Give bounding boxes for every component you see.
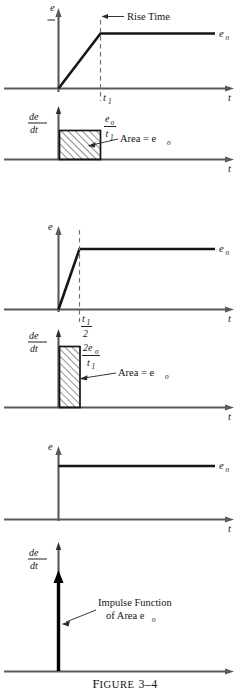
impulse-leader-arrowhead — [62, 621, 71, 627]
panel-3-bottom-plot: Impulse Function of Area e o de dt — [4, 542, 234, 675]
panel-1-top-y-axis-label: e — [50, 2, 55, 13]
panel-2-top-y-axis-label: e — [48, 221, 53, 232]
panel-2-top-y-axis-arrowhead — [55, 226, 61, 235]
panel-1-top-plot: Rise Time e t e o t 1 — [4, 2, 234, 106]
rise-time-arrowhead — [102, 14, 109, 19]
impulse-label-line2: of Area e — [106, 610, 145, 621]
impulse-leader — [66, 610, 96, 622]
panel-1-area-label: Area = e — [120, 133, 157, 144]
panel-1-output-label-sub: o — [226, 33, 230, 42]
panel-1-height-denominator: t — [106, 128, 109, 139]
panel-3-top-x-axis-arrowhead — [225, 516, 234, 522]
panel-2-bottom-x-axis-label: t — [228, 411, 232, 422]
panel-1-output-label: e — [219, 28, 224, 39]
panel-3-step: e t e o Impulse Function of Area e o — [4, 441, 234, 675]
panel-3-output-label: e — [219, 460, 224, 471]
panel-3-bottom-y-axis-arrowhead — [56, 542, 61, 550]
panel-1-bottom-plot: de dt e o t 1 Area = e o t — [4, 106, 234, 174]
panel-1-bottom-x-axis-arrowhead — [225, 156, 234, 162]
panel-3-top-x-axis-label: t — [228, 523, 232, 534]
figure-caption-word-igure: IGURE — [99, 679, 134, 690]
panel-3-dedt-denominator: dt — [30, 560, 38, 571]
panel-1-ramp: Rise Time e t e o t 1 — [4, 2, 234, 174]
panel-2-dedt-numerator: de — [29, 330, 39, 341]
panel-1-top-x-axis-label: t — [228, 92, 232, 103]
panel-1-bottom-y-axis-arrowhead — [56, 106, 61, 114]
rise-time-label: Rise Time — [127, 11, 170, 22]
panel-1-dedt-denominator: dt — [30, 124, 38, 135]
panel-2-dedt-denominator: dt — [30, 343, 38, 354]
panel-2-bottom-y-axis-arrowhead — [56, 329, 61, 337]
panel-1-t1-label: t — [103, 92, 107, 103]
panel-2-height-numerator: 2e — [83, 342, 93, 353]
figure-caption: FIGURE 3–4 — [0, 674, 250, 692]
panel-3-output-label-sub: o — [226, 465, 230, 474]
panel-1-height-numerator: e — [105, 113, 110, 124]
figure-caption-number: 3–4 — [139, 677, 158, 691]
panel-1-t1-label-sub: 1 — [108, 97, 112, 106]
impulse-label-line2-sub: o — [152, 615, 156, 624]
panel-1-top-y-axis-arrowhead — [55, 8, 61, 17]
figure-canvas: Rise Time e t e o t 1 — [0, 0, 250, 692]
panel-2-top-x-axis-label: t — [228, 313, 232, 324]
panel-2-top-plot: e t e o t 1 2 — [4, 221, 234, 339]
impulse-arrowhead — [54, 570, 64, 583]
panel-3-top-plot: e t e o — [4, 441, 234, 534]
panel-2-height-denominator-sub: 1 — [92, 362, 96, 371]
panel-2-ramp-curve — [59, 249, 216, 310]
panel-2-top-x-axis-arrowhead — [225, 306, 234, 312]
panel-3-top-y-axis-label: e — [48, 441, 53, 452]
panel-2-area-label: Area = e — [118, 367, 155, 378]
panel-2-bottom-x-axis-arrowhead — [225, 404, 234, 410]
panel-2-ramp-half: e t e o t 1 2 de dt — [4, 221, 234, 422]
impulse-label-line1: Impulse Function — [98, 597, 173, 608]
panel-2-area-leader — [84, 373, 116, 378]
panel-2-tick-denominator: 2 — [83, 328, 88, 339]
panel-2-tick-numerator: t — [82, 313, 85, 324]
panel-2-output-label: e — [219, 243, 224, 254]
panel-1-dedt-numerator: de — [29, 111, 39, 122]
panel-2-height-denominator: t — [87, 357, 90, 368]
panel-1-height-numerator-sub: o — [111, 118, 115, 127]
panel-3-top-y-axis-arrowhead — [55, 446, 61, 455]
panel-2-area-label-sub: o — [165, 372, 169, 381]
panel-2-bottom-plot: de dt 2e o t 1 Area = e o t — [4, 329, 234, 422]
panel-1-bottom-x-axis-label: t — [228, 163, 232, 174]
panel-2-height-numerator-sub: o — [95, 347, 99, 356]
panel-1-area-label-sub: o — [167, 138, 171, 147]
panel-1-ramp-curve — [59, 34, 216, 89]
figure-3-4: Rise Time e t e o t 1 — [0, 0, 250, 692]
panel-2-pulse-hatch — [60, 347, 81, 408]
panel-2-tick-numerator-sub: 1 — [87, 318, 91, 327]
panel-1-top-x-axis-arrowhead — [225, 85, 234, 91]
panel-2-output-label-sub: o — [226, 248, 230, 257]
panel-3-dedt-numerator: de — [29, 547, 39, 558]
